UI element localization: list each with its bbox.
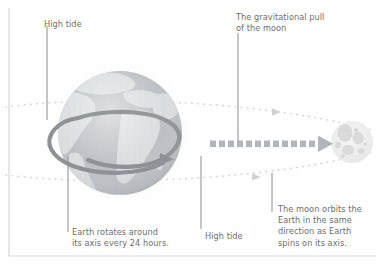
tide-diagram: High tide The gravitational pull of the … <box>0 0 385 270</box>
label-high-tide-top: High tide <box>44 19 82 30</box>
label-earth-rotates: Earth rotates around its axis every 24 h… <box>72 227 169 249</box>
label-moon-orbits: The moon orbits the Earth in the same di… <box>278 204 362 249</box>
gravitational-pull-arrow <box>210 136 333 153</box>
label-high-tide-bottom: High tide <box>205 231 243 242</box>
moon-body <box>331 121 373 163</box>
label-gravitational-pull: The gravitational pull of the moon <box>236 12 324 34</box>
